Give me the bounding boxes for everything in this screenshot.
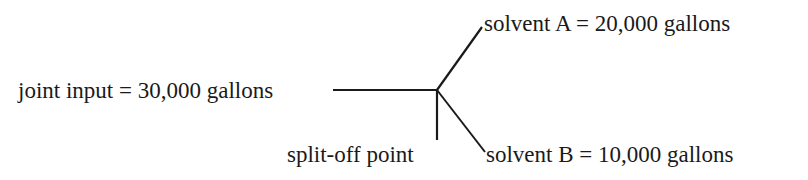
split-off-point-label: split-off point [287,143,414,166]
joint-input-label: joint input = 30,000 gallons [18,79,273,102]
branch-a-line [437,27,482,90]
solvent-a-label: solvent A = 20,000 gallons [484,12,730,35]
solvent-b-label: solvent B = 10,000 gallons [486,143,733,166]
branch-b-line [437,90,485,152]
